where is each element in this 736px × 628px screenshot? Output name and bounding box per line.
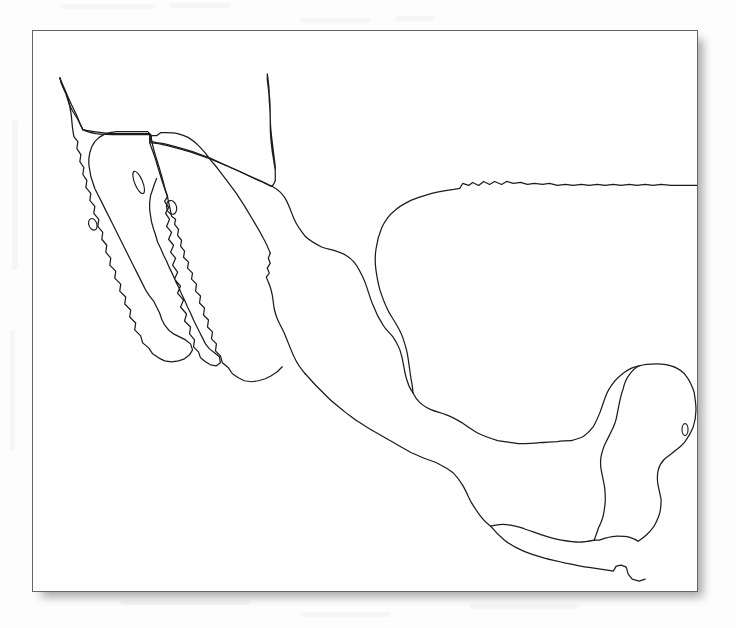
sonora-coast [150,143,283,382]
isla-cedros [87,217,99,231]
mexico-outline-map [33,31,697,591]
gulf-coast-north [375,181,697,392]
yucatan-peninsula-coast [638,367,696,541]
rio-grande-border [272,186,413,392]
isla-angel-de-la-guarda [131,170,147,195]
map-card [32,30,698,592]
us-mexico-border [83,130,272,187]
guatemala-border-north [491,524,595,542]
isla-cozumel [682,424,688,436]
page-canvas [0,0,736,628]
pacific-coast-central [266,253,305,374]
chiapas-pacific-coast [491,526,646,581]
yucatan-west-coast [594,366,639,540]
baja-gulf-shore [150,135,221,366]
pacific-coast-north [206,155,270,254]
pacific-coast-south [305,374,490,526]
isla-tiburon [165,199,178,215]
belize-border [594,536,638,541]
gulf-coast [413,393,572,444]
mainland-mexico-outline [60,74,275,187]
baja-california-peninsula [60,78,193,362]
campeche-bay-coast [571,364,674,441]
